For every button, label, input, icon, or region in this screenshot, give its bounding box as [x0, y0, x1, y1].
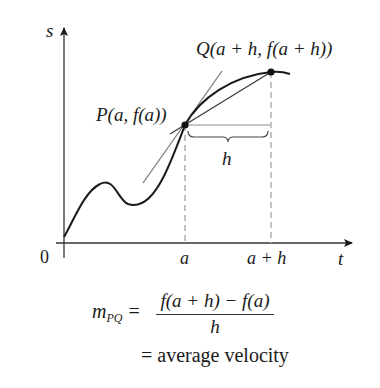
slope-symbol: m: [92, 300, 106, 322]
slope-formula: mPQ =: [92, 300, 140, 326]
slope-subscript: PQ: [106, 311, 122, 325]
point-p: [181, 121, 188, 128]
t-axis-label: t: [338, 248, 344, 269]
equals-sign: =: [128, 300, 139, 322]
point-q: [267, 68, 274, 75]
h-label: h: [222, 148, 232, 169]
tick-label-a-plus-h: a + h: [247, 248, 286, 268]
position-curve: [64, 72, 290, 237]
origin-label: 0: [40, 247, 49, 267]
s-axis-label: s: [46, 20, 53, 41]
h-brace: [188, 131, 268, 142]
tick-label-a: a: [180, 248, 189, 268]
fraction-denominator: h: [156, 315, 274, 338]
difference-quotient: f(a + h) − f(a) h: [156, 290, 274, 338]
point-q-label: Q(a + h, f(a + h)): [196, 38, 332, 60]
average-velocity-line: = average velocity: [141, 344, 289, 367]
point-p-label: P(a, f(a)): [95, 104, 167, 126]
fraction-numerator: f(a + h) − f(a): [156, 290, 274, 315]
